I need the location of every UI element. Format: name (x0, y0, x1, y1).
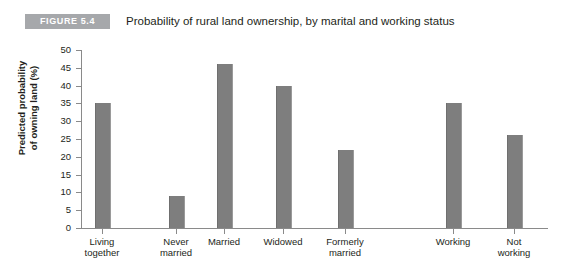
y-axis-title-line1: Predicted probability (16, 18, 28, 198)
x-axis-tick (453, 229, 454, 234)
x-axis-category-label: Not working (479, 236, 549, 258)
x-axis-category-label: Living together (67, 236, 137, 258)
y-axis-tick-label: 10 (45, 186, 71, 197)
bar (276, 86, 292, 228)
y-axis-tick (76, 210, 81, 211)
y-axis-tick (76, 50, 81, 51)
x-axis-tick (514, 229, 515, 234)
y-axis-tick-label: 0 (45, 222, 71, 233)
y-axis-title: Predicted probability of owning land (%) (16, 18, 40, 198)
bar (446, 103, 462, 228)
y-axis-tick (76, 175, 81, 176)
x-axis-category-label: Widowed (248, 236, 318, 247)
x-axis-tick (224, 229, 225, 234)
y-axis-tick (76, 192, 81, 193)
y-axis-tick-label: 25 (45, 133, 71, 144)
y-axis-tick-label: 20 (45, 151, 71, 162)
bar (95, 103, 111, 228)
y-axis-tick-label: 30 (45, 115, 71, 126)
x-axis-line (81, 228, 548, 229)
x-axis-category-label: Formerly married (310, 236, 380, 258)
bar (169, 196, 185, 228)
bar (507, 135, 523, 228)
x-axis-tick (283, 229, 284, 234)
y-axis-line (81, 50, 82, 229)
y-axis-tick (76, 121, 81, 122)
y-axis-tick (76, 228, 81, 229)
y-axis-tick-label: 45 (45, 62, 71, 73)
y-axis-title-line2: of owning land (%) (28, 18, 40, 198)
x-axis-tick (102, 229, 103, 234)
y-axis-tick-label: 5 (45, 204, 71, 215)
bar (217, 64, 233, 228)
bar-chart: Predicted probability of owning land (%)… (0, 0, 569, 279)
y-axis-tick (76, 68, 81, 69)
y-axis-tick (76, 103, 81, 104)
y-axis-tick-label: 35 (45, 97, 71, 108)
y-axis-tick (76, 157, 81, 158)
y-axis-tick (76, 86, 81, 87)
x-axis-tick (345, 229, 346, 234)
y-axis-tick (76, 139, 81, 140)
x-axis-category-label: Working (418, 236, 488, 247)
y-axis-tick-label: 40 (45, 80, 71, 91)
y-axis-tick-label: 50 (45, 44, 71, 55)
bar (338, 150, 354, 228)
y-axis-tick-label: 15 (45, 169, 71, 180)
x-axis-tick (176, 229, 177, 234)
